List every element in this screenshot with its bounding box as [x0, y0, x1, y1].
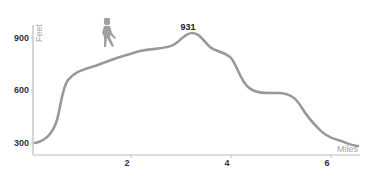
y-tick-label-900: 900 [14, 33, 29, 43]
x-tick-label-6: 6 [324, 158, 329, 168]
elevation-line [35, 33, 358, 146]
x-tick-label-4: 4 [224, 158, 229, 168]
y-tick-label-300: 300 [14, 138, 29, 148]
peak-elevation-label: 931 [180, 22, 195, 32]
hiker-icon [102, 18, 116, 47]
y-axis-title: Feet [34, 23, 44, 42]
chart-canvas: 900 600 300 Feet 2 4 6 Miles 931 [0, 0, 375, 176]
elevation-chart: 900 600 300 Feet 2 4 6 Miles 931 [0, 0, 375, 176]
x-tick-label-2: 2 [124, 158, 129, 168]
y-tick-label-600: 600 [14, 85, 29, 95]
